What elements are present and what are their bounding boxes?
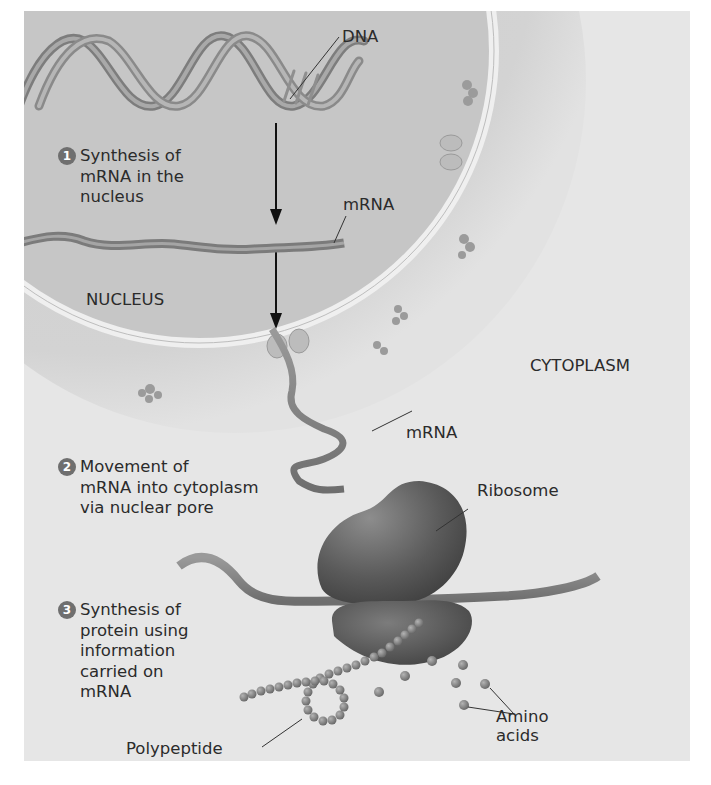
label-amino-acids: Amino acids [496,707,549,745]
amino-acids [374,656,490,710]
step-2-number-badge: 2 [58,458,76,476]
step-3-text: Synthesis of protein using information c… [80,600,188,703]
label-nucleus: NUCLEUS [86,290,164,309]
label-dna: DNA [342,27,378,46]
step-1: 1 Synthesis of mRNA in the nucleus [80,146,184,208]
label-cytoplasm: CYTOPLASM [530,356,630,375]
step-1-text: Synthesis of mRNA in the nucleus [80,146,184,208]
figure-panel: DNA mRNA NUCLEUS CYTOPLASM mRNA Ribosome… [24,11,690,761]
step-3: 3 Synthesis of protein using information… [80,600,188,703]
label-ribosome: Ribosome [477,481,559,500]
label-mrna-cytoplasm: mRNA [406,423,457,442]
label-mrna-nucleus: mRNA [343,195,394,214]
label-polypeptide: Polypeptide [126,739,223,758]
step-1-number-badge: 1 [58,147,76,165]
ribosome [317,481,472,665]
step-3-number-badge: 3 [58,601,76,619]
polypeptide-leader [262,719,302,747]
step-2-text: Movement of mRNA into cytoplasm via nucl… [80,457,259,519]
step-2: 2 Movement of mRNA into cytoplasm via nu… [80,457,259,519]
